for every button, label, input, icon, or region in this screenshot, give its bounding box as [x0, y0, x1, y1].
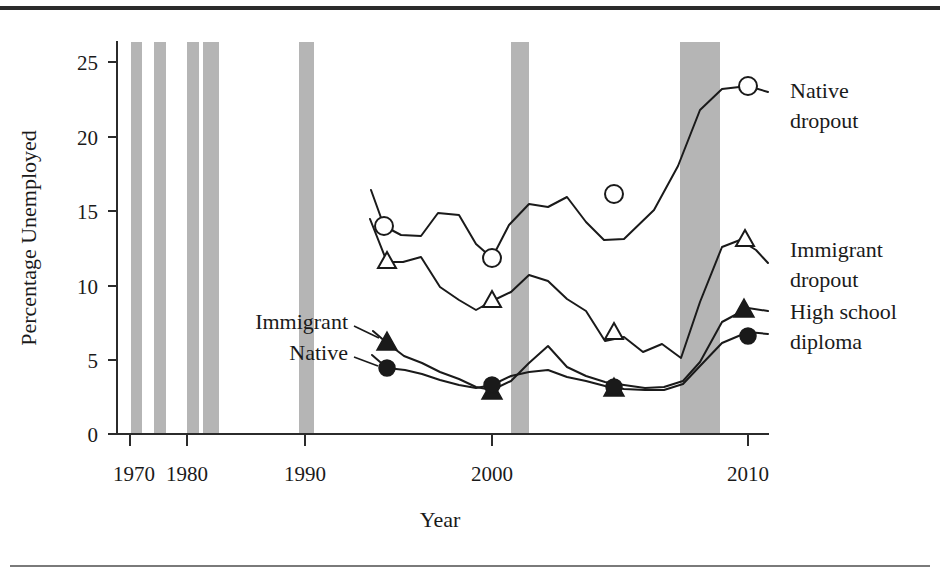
- recession-band: [187, 42, 199, 434]
- marker-solid-circle: [484, 377, 500, 393]
- y-tick-label-0: 0: [88, 423, 99, 447]
- figure-page: 25 20 15 10 5 0 1970 1980 1990 2000 2010…: [0, 0, 940, 579]
- marker-open-triangle: [378, 252, 396, 268]
- recession-band: [154, 42, 166, 434]
- y-tick-label-10: 10: [77, 275, 98, 299]
- native-dropout-line1: Native: [790, 78, 849, 103]
- x-axis-title: Year: [420, 507, 461, 532]
- y-tick-label-20: 20: [77, 126, 98, 150]
- x-tick-labels: 1970 1980 1990 2000 2010: [113, 462, 769, 486]
- marker-open-circle: [739, 77, 757, 95]
- marker-solid-circle: [606, 379, 622, 395]
- label-native-inline: Native: [289, 340, 348, 365]
- marker-open-circle: [605, 185, 623, 203]
- marker-solid-circle: [379, 360, 395, 376]
- label-high-school-diploma: High school diploma: [790, 299, 897, 354]
- x-tick-label-1980: 1980: [166, 462, 208, 486]
- y-axis-title: Percentage Unemployed: [16, 130, 41, 346]
- unemployment-line-chart: 25 20 15 10 5 0 1970 1980 1990 2000 2010…: [0, 0, 940, 560]
- label-immigrant-dropout: Immigrant dropout: [790, 237, 883, 292]
- x-tick-label-2010: 2010: [727, 462, 769, 486]
- marker-open-triangle: [605, 323, 623, 339]
- marker-solid-circle: [740, 328, 756, 344]
- label-immigrant-inline: Immigrant: [255, 309, 348, 334]
- high-school-line2: diploma: [790, 329, 862, 354]
- inline-annotations: Immigrant Native: [255, 309, 379, 366]
- x-tick-label-1990: 1990: [284, 462, 326, 486]
- immigrant-dropout-line1: Immigrant: [790, 237, 883, 262]
- native-dropout-line2: dropout: [790, 108, 858, 133]
- y-tick-label-25: 25: [77, 51, 98, 75]
- marker-open-triangle: [736, 230, 754, 246]
- recession-band: [680, 42, 720, 434]
- x-tick-label-2000: 2000: [471, 462, 513, 486]
- x-tick-label-1970: 1970: [113, 462, 155, 486]
- marker-solid-triangle: [377, 332, 397, 350]
- label-native-dropout: Native dropout: [790, 78, 858, 133]
- bottom-rule: [10, 565, 930, 567]
- recession-band: [203, 42, 219, 434]
- y-tick-label-15: 15: [77, 200, 98, 224]
- immigrant-dropout-line2: dropout: [790, 267, 858, 292]
- recession-band: [299, 42, 314, 434]
- y-tick-label-5: 5: [88, 349, 99, 373]
- y-tick-labels: 25 20 15 10 5 0: [77, 51, 98, 447]
- high-school-line1: High school: [790, 299, 897, 324]
- recession-band: [131, 42, 142, 434]
- marker-open-circle: [483, 249, 501, 267]
- marker-open-circle: [375, 217, 393, 235]
